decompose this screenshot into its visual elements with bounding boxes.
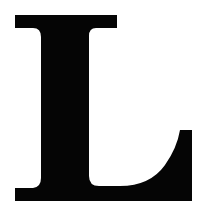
letter-l-shape	[15, 15, 192, 201]
letter-l-glyph: L	[0, 0, 209, 217]
letter-l-icon	[0, 0, 209, 217]
